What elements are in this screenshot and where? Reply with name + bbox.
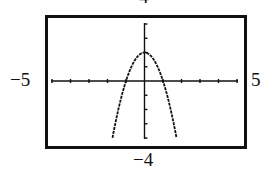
ymin-label: −4 (133, 150, 153, 169)
axes (51, 23, 238, 139)
graph-window (0, 0, 265, 171)
xmax-label: 5 (251, 70, 261, 89)
viewing-window-frame (47, 17, 246, 148)
ymax-label: 4 (139, 0, 149, 6)
xmin-label: −5 (10, 70, 30, 89)
